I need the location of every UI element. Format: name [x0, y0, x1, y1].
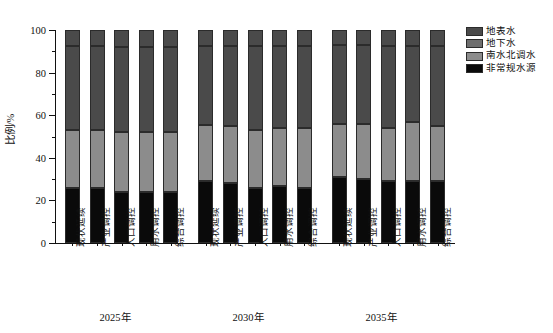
bar-segment-南水北调水	[90, 130, 105, 188]
bar-segment-地下水	[248, 46, 263, 130]
y-axis-title: 比例/%	[2, 100, 17, 160]
bar-segment-地表水	[356, 30, 371, 45]
x-tick	[171, 243, 172, 246]
bar-segment-地表水	[297, 30, 312, 46]
x-tick	[146, 243, 147, 246]
legend-swatch-icon	[466, 52, 483, 61]
x-tick	[206, 243, 207, 246]
x-tick	[230, 243, 231, 246]
legend-item-南水北调水: 南水北调水	[466, 50, 536, 62]
legend-item-地表水: 地表水	[466, 26, 536, 38]
x-tick	[364, 243, 365, 246]
bar-segment-地下水	[90, 46, 105, 130]
bar-segment-南水北调水	[223, 126, 238, 184]
bar-segment-南水北调水	[272, 128, 287, 186]
y-tick-label-20: 20	[0, 195, 46, 206]
x-axis-label-现状延续: 现状延续	[210, 207, 220, 247]
bar-segment-地表水	[114, 30, 129, 47]
bar-segment-地表水	[90, 30, 105, 46]
bar-segment-地下水	[381, 46, 396, 128]
bar-segment-南水北调水	[65, 130, 80, 188]
bar-segment-地下水	[198, 46, 213, 125]
x-axis-label-用水调控: 用水调控	[150, 207, 160, 247]
x-axis-label-综合调控: 综合调控	[175, 207, 185, 247]
bar-segment-地下水	[430, 46, 445, 126]
bar-segment-地表水	[430, 30, 445, 46]
bar-segment-地下水	[332, 45, 347, 124]
x-tick	[72, 243, 73, 246]
x-axis-label-综合调控: 综合调控	[308, 207, 318, 247]
bar-segment-地下水	[163, 47, 178, 132]
x-axis-label-产业调控: 产业调控	[234, 207, 244, 247]
bar-segment-地表水	[163, 30, 178, 47]
bar-segment-地下水	[114, 47, 129, 132]
legend-swatch-icon	[466, 39, 483, 48]
bar-segment-南水北调水	[332, 124, 347, 177]
bar-segment-地表水	[381, 30, 396, 46]
bar-segment-地下水	[139, 47, 154, 132]
legend-label: 非常规水源	[486, 63, 536, 75]
legend-label: 地下水	[486, 38, 516, 50]
x-tick	[339, 243, 340, 246]
x-axis-label-人口调控: 人口调控	[126, 207, 136, 247]
bar-segment-南水北调水	[405, 122, 420, 182]
bar-segment-地表水	[139, 30, 154, 47]
bar-segment-南水北调水	[198, 125, 213, 181]
x-axis-label-产业调控: 产业调控	[101, 207, 111, 247]
bar-segment-地下水	[405, 46, 420, 122]
x-tick	[122, 243, 123, 246]
bar-segment-南水北调水	[356, 124, 371, 179]
bar-segment-地表水	[65, 30, 80, 46]
y-tick-label-60: 60	[0, 110, 46, 121]
legend-label: 南水北调水	[486, 50, 536, 62]
bar-segment-南水北调水	[114, 132, 129, 192]
bar-segment-地表水	[248, 30, 263, 46]
group-label-2025: 2025年	[60, 309, 170, 324]
legend-swatch-icon	[466, 64, 483, 73]
bar-segment-南水北调水	[139, 132, 154, 192]
bar-segment-南水北调水	[297, 128, 312, 188]
x-axis-label-现状延续: 现状延续	[343, 207, 353, 247]
x-tick	[97, 243, 98, 246]
legend-label: 地表水	[486, 26, 516, 38]
chart-legend: 地表水地下水南水北调水非常规水源	[466, 26, 536, 75]
bar-segment-地表水	[332, 30, 347, 45]
group-label-2030: 2030年	[193, 309, 303, 324]
bar-segment-地下水	[356, 45, 371, 124]
bar-segment-南水北调水	[381, 128, 396, 181]
legend-swatch-icon	[466, 27, 483, 36]
stacked-bar-chart: 比例/% 100 80 60 40 20 0 现状延续产业调控人口调控用水调控综…	[0, 0, 553, 333]
x-axis-label-用水调控: 用水调控	[417, 207, 427, 247]
bar-segment-地下水	[223, 46, 238, 126]
x-tick	[280, 243, 281, 246]
legend-item-非常规水源: 非常规水源	[466, 63, 536, 75]
bar-segment-地表水	[223, 30, 238, 46]
bar-segment-南水北调水	[248, 130, 263, 188]
x-tick	[413, 243, 414, 246]
bar-segment-地表水	[198, 30, 213, 46]
x-axis-label-综合调控: 综合调控	[442, 207, 452, 247]
y-tick-label-0: 0	[0, 238, 46, 249]
x-axis-label-用水调控: 用水调控	[284, 207, 294, 247]
bar-segment-地表水	[272, 30, 287, 46]
x-axis-label-人口调控: 人口调控	[392, 207, 402, 247]
legend-item-地下水: 地下水	[466, 38, 536, 50]
x-tick	[438, 243, 439, 246]
y-tick-label-100: 100	[0, 25, 46, 36]
bar-segment-南水北调水	[430, 126, 445, 181]
x-tick	[255, 243, 256, 246]
bar-segment-地下水	[272, 46, 287, 128]
y-tick-major	[49, 243, 55, 244]
bar-segment-地下水	[65, 46, 80, 130]
x-axis-label-人口调控: 人口调控	[259, 207, 269, 247]
x-tick	[388, 243, 389, 246]
x-axis-label-现状延续: 现状延续	[76, 207, 86, 247]
bar-segment-地下水	[297, 46, 312, 128]
x-tick	[304, 243, 305, 246]
y-tick-label-40: 40	[0, 153, 46, 164]
group-label-2035: 2035年	[326, 309, 436, 324]
y-tick-label-80: 80	[0, 68, 46, 79]
bar-segment-地表水	[405, 30, 420, 46]
x-axis-label-产业调控: 产业调控	[368, 207, 378, 247]
bar-segment-南水北调水	[163, 132, 178, 192]
